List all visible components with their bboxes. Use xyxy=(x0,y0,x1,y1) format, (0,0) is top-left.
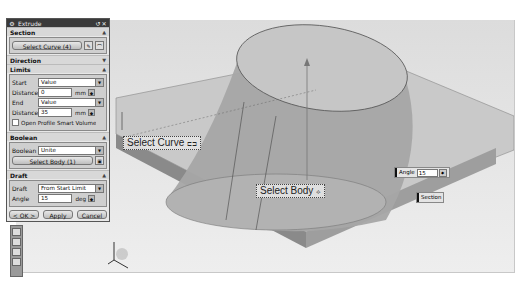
section-tag[interactable]: Section xyxy=(416,192,444,203)
start-select[interactable]: Value▼ xyxy=(38,78,104,87)
end-distance-label: Distance xyxy=(12,109,38,116)
boolean-group-body: Boolean Unite▼ Select Body (1) ▣ xyxy=(9,142,107,169)
body-icon[interactable]: ▣ xyxy=(95,156,104,165)
select-curve-button[interactable]: Select Curve (4) xyxy=(12,41,82,50)
section-group-body: Select Curve (4) ✎ ⌒ xyxy=(9,37,107,54)
end-select[interactable]: Value▼ xyxy=(38,98,104,107)
chevron-up-icon: ▲ xyxy=(102,134,106,140)
resource-bar-button[interactable] xyxy=(12,238,21,246)
dropdown-arrow-icon: ▼ xyxy=(95,99,103,106)
dialog-footer: < OK > Apply Cancel xyxy=(7,208,109,221)
curve-icon[interactable]: ⌒ xyxy=(95,41,104,50)
cancel-button[interactable]: Cancel xyxy=(77,210,107,219)
open-profile-checkbox-row[interactable]: Open Profile Smart Volume xyxy=(12,118,104,127)
direction-group-header[interactable]: Direction ▼ xyxy=(7,55,109,64)
angle-onscreen-input[interactable]: Angle 15 ◆ xyxy=(394,167,450,178)
start-label: Start xyxy=(12,79,38,86)
dialog-title: Extrude xyxy=(18,20,95,27)
end-distance-input[interactable]: 35 xyxy=(38,108,72,117)
handle-grip xyxy=(417,193,419,202)
boolean-group-header[interactable]: Boolean ▲ xyxy=(7,132,109,141)
settings-icon: ⚙ xyxy=(9,20,15,27)
csys-triad-icon xyxy=(106,240,146,270)
curve-filter-icon: ⊏⊐ xyxy=(187,141,197,147)
sketch-section-icon[interactable]: ✎ xyxy=(84,41,93,50)
limits-group-header[interactable]: Limits ▲ xyxy=(7,64,109,73)
angle-handle-label: Angle xyxy=(399,168,415,177)
dropdown-arrow-icon: ▼ xyxy=(95,79,103,86)
dropdown-arrow-icon: ▼ xyxy=(95,147,103,154)
value-menu-icon[interactable]: ◆ xyxy=(88,109,95,116)
section-tag-label: Section xyxy=(421,193,441,202)
select-curve-label: Select Curve xyxy=(127,137,184,148)
select-curve-callout[interactable]: Select Curve ⊏⊐ xyxy=(123,136,201,150)
draft-group-header[interactable]: Draft ▲ xyxy=(7,170,109,179)
value-menu-icon[interactable]: ◆ xyxy=(88,195,95,202)
angle-input[interactable]: 15 xyxy=(38,194,72,203)
dialog-title-bar[interactable]: ⚙ Extrude ↺ ✕ xyxy=(7,19,109,27)
unit-label: deg xyxy=(72,196,86,202)
angle-label: Angle xyxy=(12,195,38,202)
ok-button[interactable]: < OK > xyxy=(9,210,39,219)
resource-bar-button[interactable] xyxy=(12,248,21,256)
boolean-label: Boolean xyxy=(12,147,38,154)
resource-bar-button[interactable] xyxy=(12,228,21,236)
angle-handle-value[interactable]: 15 xyxy=(417,169,438,177)
limits-group-body: Start Value▼ Distance 0 mm ◆ End Value▼ … xyxy=(9,74,107,131)
apply-button[interactable]: Apply xyxy=(43,210,73,219)
end-label: End xyxy=(12,99,38,106)
angle-handle-dropdown-icon[interactable]: ◆ xyxy=(439,169,447,177)
unit-label: mm xyxy=(72,90,86,96)
chevron-up-icon: ▲ xyxy=(102,66,106,72)
start-distance-label: Distance xyxy=(12,89,38,96)
draft-select[interactable]: From Start Limit▼ xyxy=(38,184,104,193)
chevron-up-icon: ▲ xyxy=(102,29,106,35)
select-body-button[interactable]: Select Body (1) xyxy=(12,156,93,165)
resource-bar-button[interactable] xyxy=(12,258,21,266)
value-menu-icon[interactable]: ◆ xyxy=(88,89,95,96)
draft-group-body: Draft From Start Limit▼ Angle 15 deg ◆ xyxy=(9,180,107,207)
unit-label: mm xyxy=(72,110,86,116)
draft-label: Draft xyxy=(12,185,38,192)
chevron-up-icon: ▲ xyxy=(102,172,106,178)
resource-bar[interactable] xyxy=(10,225,23,277)
chevron-down-icon: ▼ xyxy=(102,57,106,63)
select-body-label: Select Body xyxy=(260,185,313,196)
dropdown-arrow-icon: ▼ xyxy=(95,185,103,192)
boolean-select[interactable]: Unite▼ xyxy=(38,146,104,155)
close-icon[interactable]: ✕ xyxy=(101,20,107,27)
handle-grip xyxy=(395,168,397,177)
open-profile-checkbox[interactable] xyxy=(12,119,19,126)
body-filter-icon: ⟡ xyxy=(316,188,321,195)
start-distance-input[interactable]: 0 xyxy=(38,88,72,97)
extrude-dialog: ⚙ Extrude ↺ ✕ Section ▲ Select Curve (4)… xyxy=(6,18,110,222)
select-body-callout[interactable]: Select Body ⟡ xyxy=(256,184,325,198)
section-group-header[interactable]: Section ▲ xyxy=(7,27,109,36)
